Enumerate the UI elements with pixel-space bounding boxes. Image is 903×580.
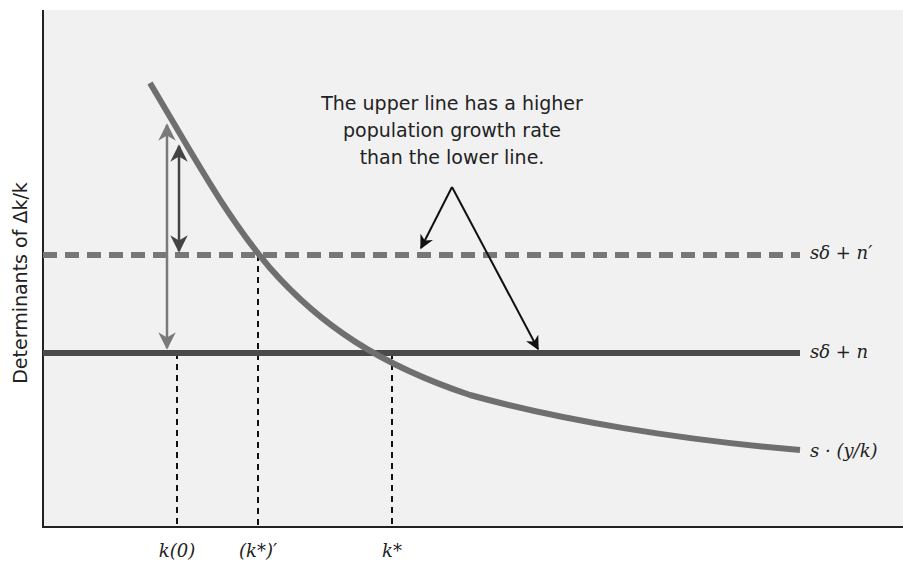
label-upper-line: sδ + n′ (810, 242, 872, 263)
annotation-arrow-lower (452, 187, 538, 349)
annotation-arrow-upper (421, 187, 452, 248)
annotation-line-1: The upper line has a higher (292, 90, 612, 117)
y-axis-label: Determinants of Δk/k (9, 182, 31, 384)
annotation-text: The upper line has a higher population g… (292, 90, 612, 171)
label-lower-line: sδ + n (810, 341, 868, 362)
diagram-svg (0, 0, 903, 580)
tick-label-kstar: k* (382, 540, 402, 561)
tick-label-kstar-prime: (k*)′ (239, 540, 277, 561)
tick-label-k0: k(0) (159, 540, 195, 561)
annotation-line-2: population growth rate (292, 117, 612, 144)
label-savings-curve: s · (y/k) (810, 440, 878, 461)
annotation-line-3: than the lower line. (292, 144, 612, 171)
